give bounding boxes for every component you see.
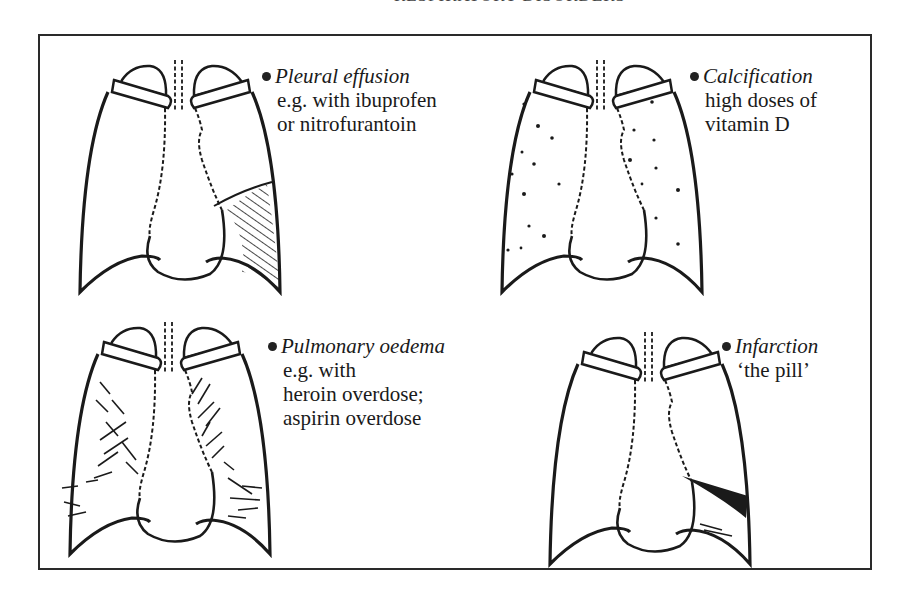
- effusion-hatching: [227, 185, 280, 292]
- bullet-icon: [262, 72, 271, 81]
- panel-text: e.g. with: [283, 358, 445, 382]
- panel-title: Pleural effusion: [275, 64, 410, 88]
- label-pulmonary-oedema: Pulmonary oedema e.g. with heroin overdo…: [268, 334, 445, 430]
- panel-text: vitamin D: [705, 112, 817, 136]
- panel-text: aspirin overdose: [283, 406, 445, 430]
- bullet-icon: [268, 342, 277, 351]
- panel-title: Pulmonary oedema: [281, 334, 445, 358]
- panel-title: Infarction: [735, 334, 818, 358]
- panel-title: Calcification: [703, 64, 813, 88]
- panel-text: or nitrofurantoin: [277, 112, 437, 136]
- page-header: RESPIRATORY DISORDERS: [300, 0, 720, 6]
- panel-text: high doses of: [705, 88, 817, 112]
- panel-text: ‘the pill’: [737, 358, 818, 382]
- panel-text: heroin overdose;: [283, 382, 445, 406]
- bullet-icon: [690, 72, 699, 81]
- label-pleural-effusion: Pleural effusion e.g. with ibuprofen or …: [262, 64, 437, 136]
- calcification-dots: [506, 100, 680, 251]
- label-calcification: Calcification high doses of vitamin D: [690, 64, 817, 136]
- panel-text: e.g. with ibuprofen: [277, 88, 437, 112]
- label-infarction: Infarction ‘the pill’: [722, 334, 818, 382]
- oedema-streaks: [62, 378, 262, 518]
- lung-diagram-calcification: [484, 60, 724, 300]
- lung-diagram-pulmonary-oedema: [52, 322, 292, 562]
- bullet-icon: [722, 342, 731, 351]
